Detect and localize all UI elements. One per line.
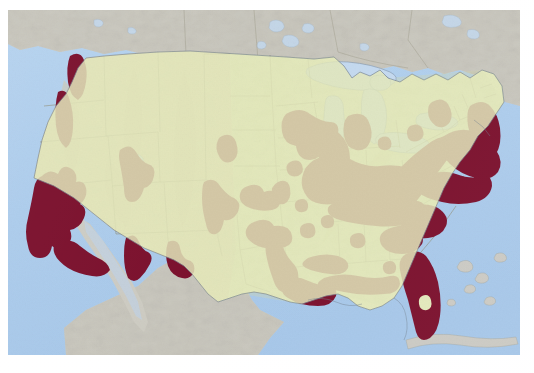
map-figure — [0, 0, 534, 373]
map-graphic — [8, 10, 520, 355]
range-florida-inner-gap — [419, 295, 432, 310]
map-canvas — [8, 10, 520, 355]
